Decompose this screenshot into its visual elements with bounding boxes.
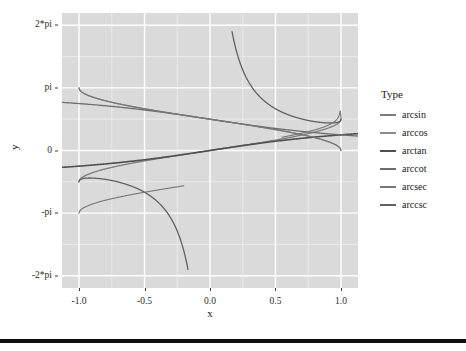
x-tick-mark	[341, 288, 342, 291]
x-axis-ticks: -1.0 -0.5 0.0 0.5 1.0	[62, 293, 358, 307]
legend-item-label: arcsec	[402, 182, 427, 192]
legend: Type arcsinarccosarctanarccotarcsecarccs…	[379, 89, 464, 214]
y-axis-ticks: 2*pi pi 0 -pi -2*pi	[0, 13, 52, 288]
legend-item-label: arcsin	[402, 110, 426, 120]
legend-item[interactable]: arccos	[379, 124, 464, 142]
curve-arcsec-branch	[79, 186, 184, 213]
legend-key-swatch	[379, 142, 397, 160]
bottom-rule	[0, 339, 466, 343]
legend-key-swatch	[379, 106, 397, 124]
x-tick-label: 0.0	[204, 297, 216, 307]
y-tick-mark	[55, 150, 58, 151]
legend-item[interactable]: arcsec	[379, 178, 464, 196]
legend-item[interactable]: arccsc	[379, 196, 464, 214]
x-tick-mark	[79, 288, 80, 291]
x-tick-mark	[210, 288, 211, 291]
x-tick-mark	[275, 288, 276, 291]
data-curves	[62, 13, 358, 288]
plot-panel	[62, 13, 358, 288]
x-tick-mark	[145, 288, 146, 291]
curve-arccsc-negative	[79, 178, 188, 269]
y-tick-label: -pi	[41, 208, 52, 218]
y-tick-label: -2*pi	[32, 271, 52, 281]
legend-key-swatch	[379, 160, 397, 178]
x-axis-title: x	[62, 307, 358, 319]
legend-key-swatch	[379, 196, 397, 214]
curve-arccsc-positive	[232, 32, 341, 123]
legend-item-label: arctan	[402, 146, 426, 156]
legend-item[interactable]: arccot	[379, 160, 464, 178]
legend-key-swatch	[379, 178, 397, 196]
legend-item-list: arcsinarccosarctanarccotarcsecarccsc	[379, 106, 464, 214]
x-tick-label: 1.0	[335, 297, 347, 307]
x-tick-label: 0.5	[270, 297, 282, 307]
curve-arctan	[62, 134, 358, 168]
y-axis-title: y	[8, 145, 20, 151]
legend-item-label: arccsc	[402, 200, 427, 210]
x-tick-label: -1.0	[71, 297, 86, 307]
chart-figure: 2*pi pi 0 -pi -2*pi -1.0 -0.5 0.0 0.5 1.…	[0, 0, 466, 351]
y-tick-mark	[55, 275, 58, 276]
y-tick-mark	[55, 25, 58, 26]
legend-item-label: arccot	[402, 164, 426, 174]
y-tick-label: 2*pi	[35, 21, 52, 31]
legend-item[interactable]: arcsin	[379, 106, 464, 124]
legend-item-label: arccos	[402, 128, 428, 138]
y-tick-label: pi	[45, 83, 52, 93]
legend-title: Type	[381, 89, 464, 100]
y-tick-mark	[55, 87, 58, 88]
legend-item[interactable]: arctan	[379, 142, 464, 160]
y-tick-label: 0	[47, 146, 52, 156]
legend-key-swatch	[379, 124, 397, 142]
x-tick-label: -0.5	[137, 297, 152, 307]
y-tick-mark	[55, 213, 58, 214]
